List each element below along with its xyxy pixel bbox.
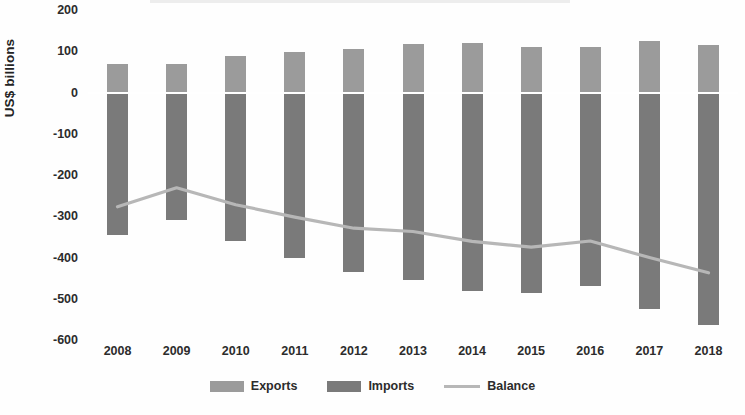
y-tick-label: -200 [26,168,78,182]
bar-group[interactable] [225,10,246,340]
bar-exports[interactable] [284,52,305,92]
bar-imports[interactable] [521,93,542,293]
y-tick-label: 200 [26,3,78,17]
bar-group[interactable] [107,10,128,340]
bar-imports[interactable] [580,93,601,287]
legend-label-imports: Imports [368,380,414,393]
x-tick-label: 2018 [695,344,723,358]
x-tick-label: 2008 [104,344,132,358]
bar-imports[interactable] [166,93,187,220]
y-tick-label: 100 [26,44,78,58]
x-tick-label: 2013 [399,344,427,358]
bar-group[interactable] [580,10,601,340]
bar-group[interactable] [166,10,187,340]
legend-item-exports[interactable]: Exports [210,380,298,393]
y-tick-label: -500 [26,292,78,306]
bar-group[interactable] [639,10,660,340]
scan-artifact-band [150,0,570,3]
legend-item-balance[interactable]: Balance [444,380,535,393]
x-tick-label: 2017 [635,344,663,358]
y-axis-tick-labels: 2001000-100-200-300-400-500-600 [20,0,78,415]
bar-imports[interactable] [343,93,364,272]
bar-group[interactable] [403,10,424,340]
bar-imports[interactable] [639,93,660,310]
x-tick-label: 2010 [222,344,250,358]
bar-exports[interactable] [403,44,424,93]
y-tick-label: -400 [26,251,78,265]
x-tick-label: 2014 [458,344,486,358]
x-axis-tick-labels: 2008200920102011201220132014201520162017… [88,344,738,366]
bar-group[interactable] [462,10,483,340]
zero-baseline [88,92,738,94]
bar-exports[interactable] [107,64,128,92]
bar-group[interactable] [284,10,305,340]
x-tick-label: 2012 [340,344,368,358]
bar-imports[interactable] [107,93,128,235]
bar-imports[interactable] [462,93,483,291]
legend-label-exports: Exports [251,380,298,393]
bar-group[interactable] [521,10,542,340]
bar-group[interactable] [698,10,719,340]
y-axis-title: US$ billions [2,18,22,138]
x-tick-label: 2016 [576,344,604,358]
bar-group[interactable] [343,10,364,340]
bar-exports[interactable] [698,45,719,92]
bar-imports[interactable] [403,93,424,281]
x-tick-label: 2015 [517,344,545,358]
bars-layer [88,10,738,340]
bar-exports[interactable] [343,49,364,92]
trade-balance-chart: US$ billions 2001000-100-200-300-400-500… [0,0,745,415]
y-tick-label: -300 [26,209,78,223]
bar-exports[interactable] [580,47,601,92]
y-tick-label: 0 [26,86,78,100]
legend-label-balance: Balance [487,380,535,393]
bar-imports[interactable] [225,93,246,242]
bar-exports[interactable] [462,43,483,93]
plot-area [88,10,738,340]
legend-swatch-balance-icon [444,385,480,388]
bar-exports[interactable] [639,41,660,93]
bar-exports[interactable] [521,47,542,92]
y-tick-label: -100 [26,127,78,141]
y-tick-label: -600 [26,333,78,347]
bar-exports[interactable] [225,56,246,92]
bar-imports[interactable] [284,93,305,258]
chart-legend: Exports Imports Balance [0,380,745,393]
legend-item-imports[interactable]: Imports [327,380,414,393]
legend-swatch-imports-icon [327,381,361,392]
legend-swatch-exports-icon [210,381,244,392]
bar-exports[interactable] [166,64,187,93]
x-tick-label: 2009 [163,344,191,358]
x-tick-label: 2011 [281,344,308,358]
bar-imports[interactable] [698,93,719,326]
